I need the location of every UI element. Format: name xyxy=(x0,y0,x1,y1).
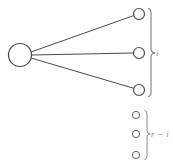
connected-node-2[interactable] xyxy=(134,48,145,59)
connected-node-3[interactable] xyxy=(134,85,145,96)
unconnected-node-1[interactable] xyxy=(132,111,139,118)
label-unconnected-group: r − i xyxy=(151,129,169,139)
connected-node-1[interactable] xyxy=(134,9,145,20)
unconnected-node-3[interactable] xyxy=(132,151,139,158)
unconnected-node-2[interactable] xyxy=(132,130,139,137)
graph-diagram-canvas xyxy=(0,0,173,168)
hub-node[interactable] xyxy=(9,44,32,67)
label-connected-group: i xyxy=(156,48,159,58)
figure-container: i r − i xyxy=(0,0,173,168)
